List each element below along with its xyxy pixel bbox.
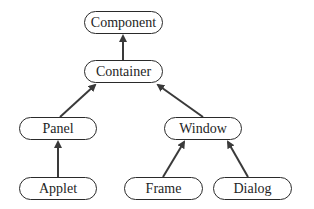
node-container: Container	[84, 60, 163, 83]
node-applet: Applet	[19, 177, 97, 200]
node-label: Container	[96, 64, 151, 80]
node-panel: Panel	[19, 117, 97, 140]
node-frame: Frame	[124, 177, 203, 200]
node-label: Panel	[42, 121, 73, 137]
class-hierarchy-diagram: Component Container Panel Window Applet …	[0, 0, 314, 209]
edge-dialog-to-window	[228, 142, 248, 177]
edge-window-to-container	[158, 85, 203, 117]
node-label: Frame	[146, 181, 182, 197]
node-component: Component	[84, 11, 163, 34]
node-label: Window	[179, 121, 227, 137]
node-window: Window	[164, 117, 242, 140]
node-dialog: Dialog	[213, 177, 292, 200]
node-label: Applet	[39, 181, 77, 197]
node-label: Component	[91, 15, 156, 31]
node-label: Dialog	[233, 181, 271, 197]
edge-frame-to-window	[163, 142, 184, 177]
edge-panel-to-container	[60, 85, 95, 117]
